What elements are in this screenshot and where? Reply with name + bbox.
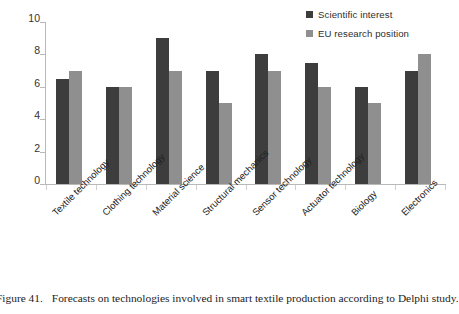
bar xyxy=(106,87,119,184)
figure-number: Figure 41. xyxy=(0,292,43,304)
figure-caption: Figure 41.Forecasts on technologies invo… xyxy=(0,292,459,304)
bar xyxy=(169,71,182,184)
y-axis-tick xyxy=(40,54,45,55)
bar xyxy=(355,87,368,184)
legend-item-scientific-interest: Scientific interest xyxy=(306,9,409,20)
y-axis-tick-label: 8 xyxy=(18,44,40,56)
bar xyxy=(268,71,281,184)
y-axis-tick xyxy=(40,152,45,153)
bar xyxy=(56,79,69,184)
bar xyxy=(318,87,331,184)
y-axis-tick xyxy=(40,22,45,23)
y-axis-tick xyxy=(40,87,45,88)
figure-container: Scientific interest EU research position… xyxy=(0,0,459,314)
legend-label: Scientific interest xyxy=(318,9,392,20)
bar xyxy=(405,71,418,184)
y-axis-tick xyxy=(40,119,45,120)
bar-group xyxy=(405,22,431,184)
bar xyxy=(219,103,232,184)
bar xyxy=(418,54,431,184)
y-axis-tick-label: 2 xyxy=(18,142,40,154)
x-axis-category-label: Biology xyxy=(349,188,379,218)
bar xyxy=(119,87,132,184)
x-axis-category-label: Electronics xyxy=(399,177,440,218)
y-axis-tick-label: 10 xyxy=(18,12,40,24)
x-axis-category-labels: Textile technologyClothing technologyMat… xyxy=(0,184,459,279)
y-axis-tick-labels: 0246810 xyxy=(18,18,40,184)
square-swatch-icon xyxy=(306,11,313,18)
bar xyxy=(206,71,219,184)
y-axis-tick-label: 4 xyxy=(18,109,40,121)
y-axis-tick-label: 6 xyxy=(18,77,40,89)
figure-caption-text: Forecasts on technologies involved in sm… xyxy=(52,292,459,304)
bar xyxy=(368,103,381,184)
bar-group xyxy=(106,22,132,184)
chart-plot-area: Scientific interest EU research position… xyxy=(0,0,459,200)
bar xyxy=(69,71,82,184)
bar-group xyxy=(56,22,82,184)
bar-group xyxy=(206,22,232,184)
